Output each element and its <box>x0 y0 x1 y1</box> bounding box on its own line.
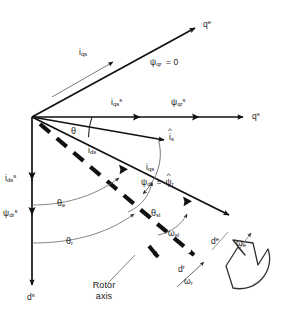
angle-arc-theta-r <box>32 214 134 243</box>
rotor-axis-line1: Rotor <box>77 280 131 291</box>
axis-ds <box>28 117 35 285</box>
label-angle-theta-e: θe <box>57 199 65 208</box>
vector-diagram-svg <box>0 0 281 311</box>
label-psi-dr-eq-psi-r: ψdr = ^ψr <box>141 178 174 187</box>
label-psi-dr-s: ψdrs <box>3 208 18 218</box>
label-axis-qe: qe <box>203 19 211 28</box>
rotor-axis-leader-line <box>108 255 135 283</box>
label-angle-theta-sl: θsl <box>151 209 160 218</box>
vector-iqs-arrow <box>52 62 113 97</box>
label-vector-is-hat: ^is <box>169 133 174 142</box>
label-omega-r: ωr <box>184 277 193 286</box>
label-angle-theta: θ <box>71 127 76 136</box>
label-vector-iqs-curved: iqs <box>146 163 154 172</box>
label-axis-qs: qs <box>252 111 260 120</box>
label-vector-iqs: iqs <box>79 48 87 57</box>
rotating-frame-arc-symbol <box>226 240 270 289</box>
label-psi-qr-zero: ψqr = 0 <box>150 58 178 67</box>
rotor-axis-line2: axis <box>77 291 131 302</box>
vector-is-hat <box>32 117 164 140</box>
label-omega-sl: ωsl <box>168 229 179 238</box>
label-vector-ids: ids <box>88 146 96 155</box>
label-axis-de: de <box>211 236 219 245</box>
label-vector-ids-s: idss <box>5 173 16 183</box>
angle-arc-theta-e <box>32 178 119 205</box>
vector-diagram-canvas: qe iqs ψqr = 0 iqss ψqrs qs θ ^is ids iq… <box>0 0 281 311</box>
axis-qs <box>32 113 243 120</box>
label-angle-theta-r: θr <box>66 237 73 246</box>
label-omega-e: ωe <box>236 239 246 248</box>
label-vector-iqs-s: iqss <box>111 97 122 107</box>
label-rotor-axis: Rotor axis <box>77 280 131 301</box>
omega-sl-thick-pointer <box>149 246 158 257</box>
label-axis-dr: dr <box>178 264 185 273</box>
label-psi-qr-s: ψqrs <box>171 97 186 107</box>
label-axis-ds: ds <box>27 292 35 301</box>
